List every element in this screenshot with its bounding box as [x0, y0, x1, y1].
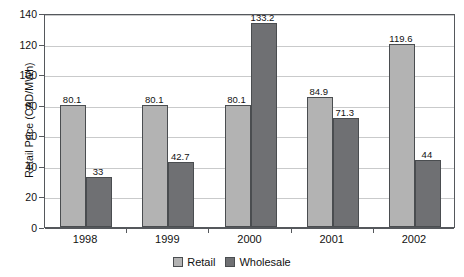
- legend-item-wholesale[interactable]: Wholesale: [225, 256, 290, 268]
- y-tick-label-100: 100: [19, 69, 37, 81]
- bar-value-retail-2002: 119.6: [389, 33, 412, 44]
- bar-value-wholesale-1999: 42.7: [171, 151, 190, 162]
- y-tick-mark-0: [39, 228, 44, 229]
- bar-wholesale-1998[interactable]: [86, 177, 112, 227]
- y-tick-label-40: 40: [25, 161, 37, 173]
- legend-label-wholesale: Wholesale: [239, 256, 290, 268]
- gridline-0: [45, 228, 454, 229]
- bar-value-retail-2001: 84.9: [309, 86, 328, 97]
- bar-value-wholesale-2001: 71.3: [335, 107, 354, 118]
- bar-wholesale-2002[interactable]: [415, 160, 441, 227]
- y-tick-label-120: 120: [19, 39, 37, 51]
- bar-retail-2000[interactable]: [225, 105, 251, 227]
- bar-retail-1998[interactable]: [60, 105, 86, 227]
- y-tick-label-60: 60: [25, 130, 37, 142]
- legend-swatch-retail-icon: [173, 257, 183, 267]
- x-tick-label-2000: 2000: [237, 233, 261, 245]
- chart-legend: RetailWholesale: [0, 256, 464, 268]
- plot-area: [44, 14, 455, 228]
- bar-wholesale-2000[interactable]: [251, 23, 277, 227]
- bar-wholesale-1999[interactable]: [168, 162, 194, 227]
- legend-item-retail[interactable]: Retail: [173, 256, 215, 268]
- legend-swatch-wholesale-icon: [225, 257, 235, 267]
- x-tick-label-2001: 2001: [319, 233, 343, 245]
- y-tick-label-0: 0: [31, 222, 37, 234]
- bars: [45, 15, 454, 227]
- bar-value-retail-1999: 80.1: [145, 94, 164, 105]
- x-tick-mark-0: [126, 228, 127, 233]
- bar-chart: Retail Price (CAD/MWh) 02040608010012014…: [0, 0, 464, 277]
- bar-value-retail-1998: 80.1: [63, 94, 82, 105]
- bar-retail-2001[interactable]: [307, 97, 333, 227]
- bar-value-wholesale-2002: 44: [422, 149, 433, 160]
- legend-label-retail: Retail: [187, 256, 215, 268]
- x-tick-mark-3: [373, 228, 374, 233]
- x-tick-label-2002: 2002: [402, 233, 426, 245]
- bar-value-wholesale-1998: 33: [93, 166, 104, 177]
- x-tick-mark-1: [208, 228, 209, 233]
- bar-retail-1999[interactable]: [142, 105, 168, 227]
- y-tick-label-140: 140: [19, 8, 37, 20]
- cropped-title-remnant: [0, 0, 464, 5]
- bar-wholesale-2001[interactable]: [333, 118, 359, 227]
- bar-retail-2002[interactable]: [389, 44, 415, 227]
- x-tick-label-1999: 1999: [155, 233, 179, 245]
- x-tick-label-1998: 1998: [73, 233, 97, 245]
- bar-value-wholesale-2000: 133.2: [251, 12, 275, 23]
- y-axis-ticks: 020406080100120140: [0, 0, 44, 277]
- bar-value-retail-2000: 80.1: [227, 94, 246, 105]
- y-tick-label-80: 80: [25, 100, 37, 112]
- x-tick-mark-2: [291, 228, 292, 233]
- y-tick-label-20: 20: [25, 191, 37, 203]
